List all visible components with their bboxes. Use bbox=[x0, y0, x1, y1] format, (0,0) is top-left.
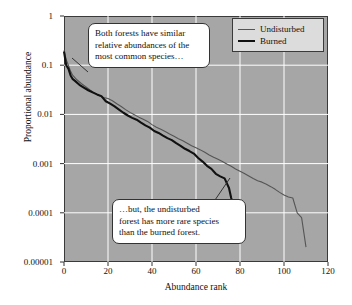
x-tick-label: 100 bbox=[277, 266, 291, 276]
y-tick-label: 0.01 bbox=[37, 109, 60, 119]
annotation-bottom-line-1: …but, the undisturbed bbox=[119, 204, 239, 216]
x-tick-label: 60 bbox=[192, 266, 201, 276]
x-axis-label: Abundance rank bbox=[64, 282, 328, 292]
annotation-top-line-1: Both forests have similar bbox=[95, 28, 203, 40]
y-tick-label: 0.0001 bbox=[28, 208, 60, 218]
annotation-callout-bottom: …but, the undisturbed forest has more ra… bbox=[112, 199, 246, 244]
x-tick-label: 0 bbox=[62, 266, 67, 276]
legend-label-undisturbed: Undisturbed bbox=[260, 24, 305, 34]
legend-line-icon-burned bbox=[238, 40, 255, 42]
annotation-top-line-3: most common species… bbox=[95, 51, 203, 63]
legend-line-icon-undisturbed bbox=[238, 29, 255, 30]
x-tick-label: 40 bbox=[148, 266, 157, 276]
chart-root: 10.10.010.0010.00010.00001 0204060801001… bbox=[0, 0, 352, 305]
x-tick-label: 20 bbox=[104, 266, 113, 276]
legend-item-undisturbed: Undisturbed bbox=[238, 23, 318, 35]
y-tick-label: 0.1 bbox=[42, 60, 60, 70]
annotation-top-line-2: relative abundances of the bbox=[95, 40, 203, 52]
x-tick-label: 120 bbox=[321, 266, 335, 276]
y-tick-label: 1 bbox=[49, 11, 61, 21]
annotation-callout-top: Both forests have similar relative abund… bbox=[88, 23, 210, 68]
x-tick-label: 80 bbox=[236, 266, 245, 276]
legend-label-burned: Burned bbox=[260, 36, 287, 46]
annotation-bottom-line-2: forest has more rare species bbox=[119, 216, 239, 228]
y-tick-label: 0.001 bbox=[33, 159, 60, 169]
annotation-bottom-line-3: than the burned forest. bbox=[119, 227, 239, 239]
legend-item-burned: Burned bbox=[238, 35, 318, 47]
y-axis-label: Proportional abundance bbox=[23, 22, 33, 172]
chart-legend: Undisturbed Burned bbox=[232, 18, 324, 52]
y-tick-label: 0.00001 bbox=[24, 257, 60, 267]
